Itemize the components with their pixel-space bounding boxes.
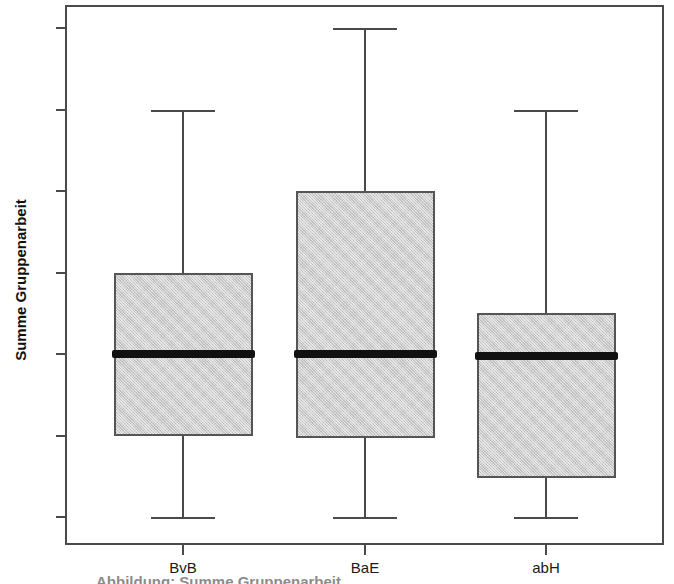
upper-whisker-cap bbox=[514, 110, 578, 112]
upper-whisker-line bbox=[182, 110, 184, 273]
x-axis-tick-label: BaE bbox=[315, 559, 415, 576]
y-axis-tick-mark bbox=[56, 435, 65, 437]
y-axis-tick-mark bbox=[56, 353, 65, 355]
x-axis-tick-label: abH bbox=[496, 559, 596, 576]
median-line bbox=[475, 352, 618, 360]
lower-whisker-line bbox=[364, 438, 366, 517]
x-axis-tick-mark bbox=[182, 545, 184, 555]
y-axis-tick-mark bbox=[56, 190, 65, 192]
boxplot-chart: Summe Gruppenarbeit 0123456BvBBaEabH Abb… bbox=[0, 0, 674, 584]
x-axis-tick-mark bbox=[545, 545, 547, 555]
median-line bbox=[294, 350, 437, 358]
x-axis-tick-mark bbox=[364, 545, 366, 555]
lower-whisker-cap bbox=[333, 517, 397, 519]
y-axis-tick-mark bbox=[56, 27, 65, 29]
upper-whisker-line bbox=[545, 110, 547, 314]
clipped-caption: Abbildung: Summe Gruppenarbeit bbox=[0, 576, 674, 584]
lower-whisker-line bbox=[182, 436, 184, 518]
x-axis-tick-label: BvB bbox=[133, 559, 233, 576]
plot-overlay: 0123456BvBBaEabH bbox=[0, 0, 674, 584]
lower-whisker-cap bbox=[151, 517, 215, 519]
upper-whisker-line bbox=[364, 28, 366, 191]
upper-whisker-cap bbox=[151, 110, 215, 112]
clipped-caption-text: Abbildung: Summe Gruppenarbeit bbox=[96, 576, 674, 584]
lower-whisker-line bbox=[545, 478, 547, 517]
iqr-box bbox=[477, 313, 616, 478]
iqr-box bbox=[296, 191, 435, 438]
y-axis-tick-mark bbox=[56, 516, 65, 518]
upper-whisker-cap bbox=[333, 28, 397, 30]
median-line bbox=[112, 350, 255, 358]
y-axis-tick-mark bbox=[56, 109, 65, 111]
y-axis-tick-mark bbox=[56, 272, 65, 274]
lower-whisker-cap bbox=[514, 517, 578, 519]
